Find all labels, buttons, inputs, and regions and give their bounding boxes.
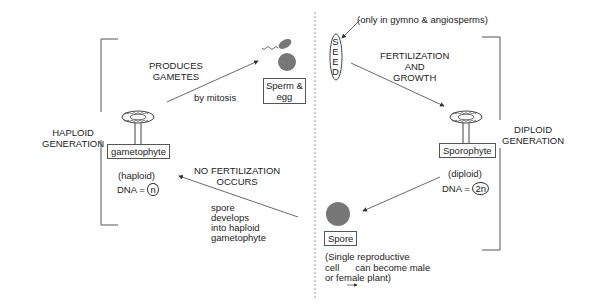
sperm-egg-line2: egg [266,91,303,102]
spore-desc-cell: cell [325,262,339,273]
seed-letter: D [332,67,339,77]
by-mitosis-label: by mitosis [194,92,236,103]
produces-label-line1: PRODUCES [149,60,203,71]
seed-note: (only in gymno & angiosperms) [357,14,488,25]
sporophyte-dna: DNA = 2n [442,182,489,195]
gametophyte-plant-icon [122,111,154,144]
spore-desc-become: can become male [355,262,430,273]
no-fertilization-label: NO FERTILIZATION OCCURS [194,165,280,187]
produces-gametes-label: PRODUCES GAMETES [149,60,203,82]
sporophyte-plant-icon [450,111,482,143]
no-fert-line1: NO FERTILIZATION [194,165,280,176]
gametophyte-ploidy: (haploid) [118,170,155,181]
gametophyte-box: gametophyte [107,144,170,159]
haploid-label-line2: GENERATION [42,138,104,149]
produces-label-line2: GAMETES [149,71,203,82]
sporophyte-to-spore-arrow [363,177,440,211]
gametophyte-dna: DNA = n [117,183,159,196]
spore-cell-icon [326,202,350,226]
sperm-egg-line1: Sperm & [266,80,303,91]
dna-value-haploid: n [147,183,158,196]
sporophyte-ploidy: (diploid) [448,168,482,179]
dna-value-diploid: 2n [472,182,489,195]
spore-develops-label: spore develops into haploid gametophyte [211,203,266,243]
spore-desc-line3: or female plant) [325,273,430,284]
diploid-label-line1: DIPLOID [502,124,564,135]
sporophyte-box: Sporophyte [439,143,496,158]
sperm-egg-box: Sperm & egg [263,78,306,104]
diagram-graphics [0,0,593,304]
fert-line1: FERTILIZATION [380,50,449,61]
dna-prefix: DNA = [442,183,470,194]
no-fert-line2: OCCURS [194,176,280,187]
egg-icon [278,53,296,71]
sperm-icon [262,37,293,51]
spore-description: (Single reproductive cellcan become male… [325,252,430,284]
seed-letters: S E E D [332,37,339,77]
life-cycle-diagram: HAPLOID GENERATION gametophyte (haploid)… [0,0,593,304]
fert-line3: GROWTH [380,72,449,83]
spore-develops-line4: gametophyte [211,233,266,243]
fert-line2: AND [380,61,449,72]
haploid-label-line1: HAPLOID [42,127,104,138]
spore-box: Spore [324,231,357,246]
diploid-generation-label: DIPLOID GENERATION [502,124,564,146]
haploid-generation-label: HAPLOID GENERATION [42,127,104,149]
dna-prefix: DNA = [117,184,145,195]
diploid-label-line2: GENERATION [502,135,564,146]
fertilization-label: FERTILIZATION AND GROWTH [380,50,449,83]
